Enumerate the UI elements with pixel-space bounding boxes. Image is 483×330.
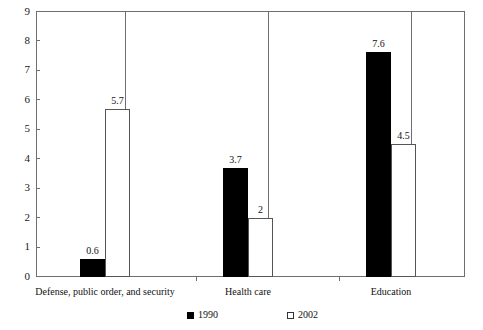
bar-value-2002-defense: 5.7 <box>102 96 133 106</box>
legend-item-1990: 1990 <box>187 308 218 322</box>
y-tick-label: 8 <box>2 35 30 46</box>
y-axis: 9 8 7 6 5 4 3 2 1 0 <box>0 0 30 330</box>
bar-1990-health-care <box>223 168 248 277</box>
legend-item-2002: 2002 <box>287 308 318 322</box>
legend-swatch-filled-icon <box>187 312 194 319</box>
y-tick-mark <box>36 188 40 189</box>
y-tick-mark <box>36 99 40 100</box>
x-axis-tick <box>196 277 197 281</box>
y-tick-label: 5 <box>2 123 30 134</box>
y-tick-label: 2 <box>2 212 30 223</box>
bar-chart: 9 8 7 6 5 4 3 2 1 0 0.6 5.7 Defense, pub… <box>0 0 483 330</box>
y-tick-mark <box>36 247 40 248</box>
bar-value-1990-education: 7.6 <box>363 39 394 49</box>
chart-legend: 1990 2002 <box>0 308 483 324</box>
x-axis-tick <box>339 277 340 281</box>
bar-2002-defense <box>105 109 130 277</box>
bar-value-1990-defense: 0.6 <box>77 246 108 256</box>
bar-1990-defense <box>80 259 105 277</box>
y-tick-label: 4 <box>2 153 30 164</box>
bar-2002-education <box>391 144 416 277</box>
bar-value-2002-health-care: 2 <box>245 205 276 215</box>
category-label-education: Education <box>311 286 471 297</box>
y-tick-mark <box>36 129 40 130</box>
bar-2002-health-care <box>248 218 273 277</box>
legend-swatch-hollow-icon <box>287 312 294 319</box>
y-tick-label: 0 <box>2 271 30 282</box>
y-tick-label: 7 <box>2 64 30 75</box>
category-label-health-care: Health care <box>168 286 328 297</box>
y-tick-mark <box>36 40 40 41</box>
y-tick-label: 9 <box>2 6 30 17</box>
y-tick-mark <box>36 70 40 71</box>
y-tick-label: 1 <box>2 241 30 252</box>
y-tick-label: 6 <box>2 94 30 105</box>
y-tick-mark <box>36 158 40 159</box>
legend-label-2002: 2002 <box>298 310 318 320</box>
bar-value-2002-education: 4.5 <box>388 131 419 141</box>
y-tick-mark <box>36 217 40 218</box>
bar-1990-education <box>366 52 391 277</box>
bar-value-1990-health-care: 3.7 <box>220 155 251 165</box>
y-tick-label: 3 <box>2 182 30 193</box>
legend-label-1990: 1990 <box>198 310 218 320</box>
